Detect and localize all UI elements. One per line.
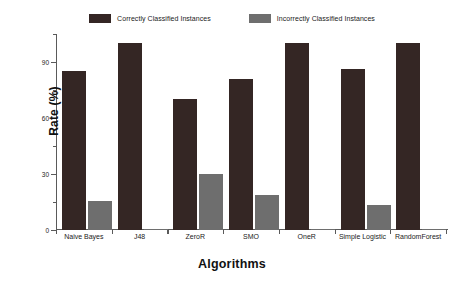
bar <box>118 43 142 230</box>
bar <box>422 229 446 230</box>
x-axis-tick-labels: Naive BayesJ48ZeroRSMOOneRSimple Logisti… <box>56 233 446 247</box>
x-tick-label: OneR <box>298 233 316 240</box>
bar <box>311 229 335 230</box>
bar-group <box>390 34 446 230</box>
legend-label-correct: Correctly Classified Instances <box>117 15 211 22</box>
y-tick-label: 0 <box>45 227 49 234</box>
bar <box>255 195 279 230</box>
x-tick-label: ZeroR <box>186 233 205 240</box>
bar <box>367 205 391 230</box>
bar-group <box>56 34 112 230</box>
bar <box>229 79 253 230</box>
bar-series-container <box>56 34 446 230</box>
x-tick-label: RandomForest <box>395 233 441 240</box>
legend-label-incorrect: Incorrectly Classified Instances <box>277 15 375 22</box>
chart-legend: Correctly Classified Instances Incorrect… <box>0 14 464 23</box>
bar-group <box>223 34 279 230</box>
x-tick-label: Simple Logistic <box>339 233 386 240</box>
legend-swatch-incorrect <box>249 14 271 23</box>
bar-group <box>335 34 391 230</box>
legend-entry-correct: Correctly Classified Instances <box>89 14 211 23</box>
x-tick <box>446 230 447 234</box>
bar <box>396 43 420 230</box>
legend-swatch-correct <box>89 14 111 23</box>
bar-group <box>167 34 223 230</box>
x-axis-title: Algorithms <box>0 257 464 271</box>
bar <box>285 43 309 230</box>
bar-group <box>112 34 168 230</box>
bar <box>173 99 197 230</box>
bar <box>62 71 86 230</box>
x-tick-label: Naive Bayes <box>64 233 103 240</box>
bar <box>199 174 223 230</box>
legend-entry-incorrect: Incorrectly Classified Instances <box>249 14 375 23</box>
bar-group <box>279 34 335 230</box>
x-tick-label: SMO <box>243 233 259 240</box>
bar <box>144 229 168 230</box>
y-tick-label: 30 <box>42 171 49 178</box>
x-tick-label: J48 <box>134 233 145 240</box>
bar <box>341 69 365 230</box>
y-axis-title: Rate (%) <box>47 51 61 171</box>
plot-area: 0306090 <box>56 34 446 230</box>
bar <box>88 201 112 230</box>
